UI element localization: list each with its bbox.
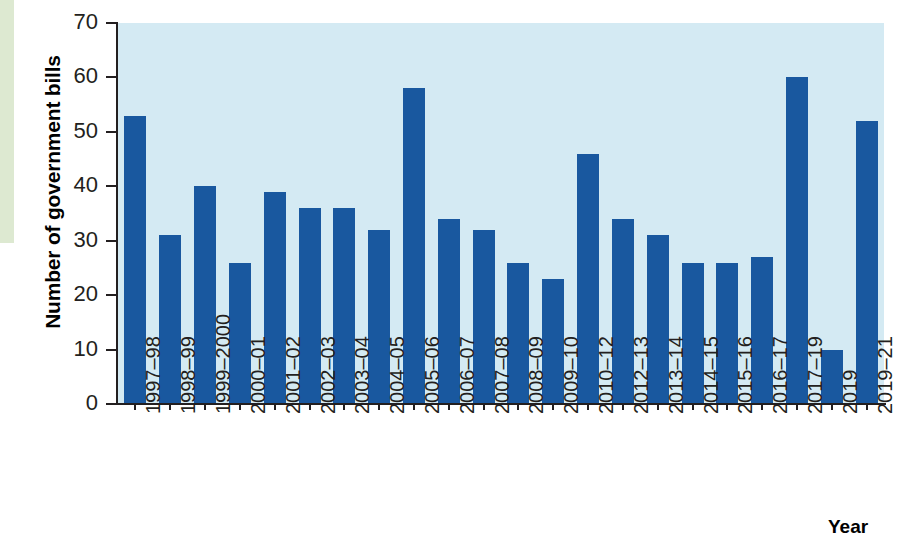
x-axis-tick-label: 2016–17 (770, 336, 790, 414)
x-axis-tick-label: 2014–15 (701, 336, 721, 414)
x-axis-tick (796, 404, 798, 410)
y-axis-tick-label: 0 (0, 392, 98, 414)
x-axis-tick-label: 2002–03 (318, 336, 338, 414)
y-axis-tick (106, 185, 117, 187)
x-axis-tick (622, 404, 624, 410)
x-axis-tick-label: 2003–04 (352, 336, 372, 414)
y-axis-tick (106, 22, 117, 24)
x-axis-tick-label: 2019 (840, 370, 860, 415)
x-axis-tick-label: 2005–06 (422, 336, 442, 414)
x-axis-tick-label: 2012–13 (631, 336, 651, 414)
x-axis-tick (134, 404, 136, 410)
y-axis-tick (106, 240, 117, 242)
chart-screenshot: 010203040506070 1997–981998–991999–20002… (0, 0, 902, 545)
x-axis-title: Year (828, 516, 868, 538)
x-axis-tick (866, 404, 868, 410)
x-axis-tick (692, 404, 694, 410)
x-axis-tick-label: 2004–05 (387, 336, 407, 414)
x-axis-tick-label: 2017–19 (805, 336, 825, 414)
x-axis-tick-label: 2001–02 (283, 336, 303, 414)
y-axis-tick (106, 131, 117, 133)
x-axis-tick-label: 2006–07 (457, 336, 477, 414)
x-axis-tick (761, 404, 763, 410)
x-axis-tick (448, 404, 450, 410)
x-axis-tick-label: 2008–09 (526, 336, 546, 414)
x-axis-tick-label: 2013–14 (666, 336, 686, 414)
x-axis-tick-label: 1997–98 (143, 336, 163, 414)
x-axis-tick-label: 2009–10 (561, 336, 581, 414)
x-axis-tick (657, 404, 659, 410)
y-axis-tick (106, 294, 117, 296)
x-axis-tick (378, 404, 380, 410)
x-axis-tick (552, 404, 554, 410)
x-axis-tick (343, 404, 345, 410)
x-axis-tick (169, 404, 171, 410)
x-axis-tick-label: 2000–01 (248, 336, 268, 414)
y-axis-tick (106, 349, 117, 351)
x-axis-tick-label: 2007–08 (492, 336, 512, 414)
y-axis-title: Number of government bills (41, 2, 65, 382)
x-axis-tick (831, 404, 833, 410)
x-axis-tick-label: 1999–2000 (213, 314, 233, 414)
x-axis-tick-label: 2019–21 (875, 336, 895, 414)
x-axis-tick (587, 404, 589, 410)
x-axis-tick (413, 404, 415, 410)
x-axis-tick (309, 404, 311, 410)
y-axis-tick (106, 76, 117, 78)
x-axis-tick (239, 404, 241, 410)
x-axis-tick-label: 2010–12 (596, 336, 616, 414)
y-axis-line (116, 22, 118, 405)
y-axis-tick (106, 403, 117, 405)
x-axis-tick (517, 404, 519, 410)
x-axis-tick (483, 404, 485, 410)
bar-chart: 010203040506070 1997–981998–991999–20002… (0, 0, 902, 545)
x-axis-tick-label: 1998–99 (178, 336, 198, 414)
x-axis-tick-label: 2015–16 (735, 336, 755, 414)
x-axis-tick (274, 404, 276, 410)
x-axis-tick (204, 404, 206, 410)
x-axis-tick (726, 404, 728, 410)
